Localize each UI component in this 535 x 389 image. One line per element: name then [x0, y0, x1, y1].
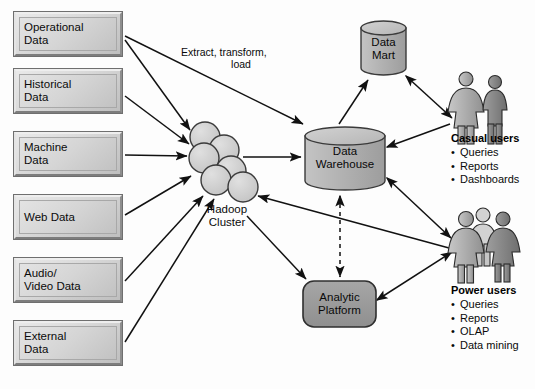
diagram-canvas: Operational Data Historical Data Machine…	[0, 0, 535, 389]
casual-users-list: Queries Reports Dashboards	[451, 146, 519, 187]
list-item: Queries	[451, 146, 519, 160]
source-label-machine: Machine Data	[24, 141, 67, 167]
casual-users-title: Casual users	[451, 132, 519, 145]
list-item: OLAP	[451, 325, 519, 339]
etl-label-line2: load	[181, 58, 301, 70]
etl-label: Extract, transform, load	[181, 46, 301, 70]
list-item: Reports	[451, 160, 519, 174]
data-mart-label: Data Mart	[361, 36, 406, 62]
power-users-title: Power users	[451, 284, 519, 297]
source-label-operational: Operational Data	[24, 21, 83, 47]
list-item: Reports	[451, 312, 519, 326]
data-warehouse-label: Data Warehouse	[305, 145, 385, 171]
source-label-audio-video: Audio/ Video Data	[24, 267, 81, 293]
power-users-list: Queries Reports OLAP Data mining	[451, 298, 519, 352]
power-users-group: Power users Queries Reports OLAP Data mi…	[451, 284, 519, 352]
list-item: Data mining	[451, 339, 519, 353]
hadoop-cluster-label: Hadoop Cluster	[192, 203, 262, 229]
analytic-platform-label: Analytic Platform	[303, 291, 376, 317]
source-label-historical: Historical Data	[24, 78, 71, 104]
casual-users-group: Casual users Queries Reports Dashboards	[451, 132, 519, 187]
list-item: Queries	[451, 298, 519, 312]
source-label-external: External Data	[24, 330, 66, 356]
list-item: Dashboards	[451, 173, 519, 187]
etl-label-line1: Extract, transform,	[181, 46, 301, 58]
power-users-figures	[448, 208, 520, 283]
hadoop-cluster-icon	[189, 122, 258, 202]
source-label-web: Web Data	[24, 211, 75, 224]
